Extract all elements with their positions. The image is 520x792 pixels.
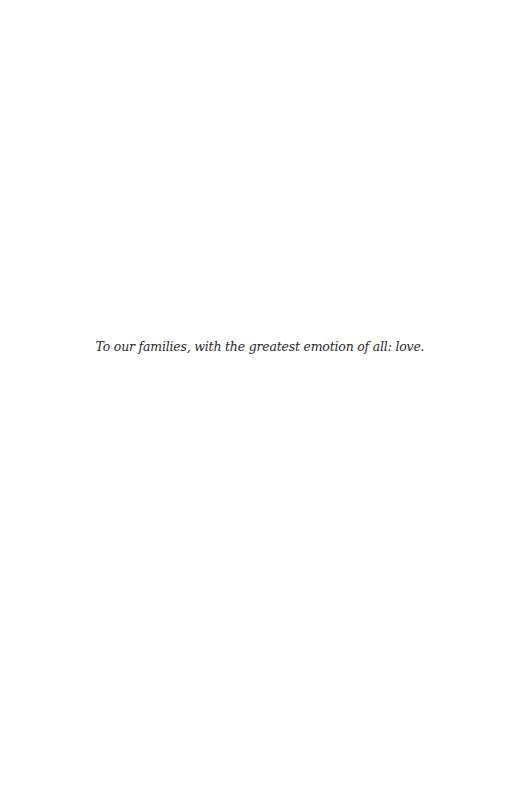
dedication-text: To our families, with the greatest emoti… [0, 339, 520, 355]
book-page: To our families, with the greatest emoti… [0, 0, 520, 792]
